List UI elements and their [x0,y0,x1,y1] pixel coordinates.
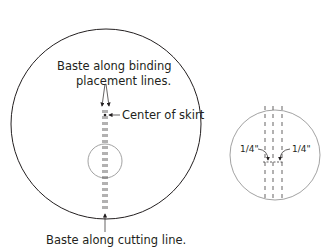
label-binding-line2: placement lines. [76,74,171,88]
detail-outline [230,110,320,200]
basting-lines [103,110,107,210]
label-center-of-skirt: Center of skirt [122,108,205,122]
detail-circle-diagram: 1/4" 1/4" [230,106,320,200]
skirt-basting-diagram: Baste along binding placement lines. Cen… [0,0,333,252]
detail-basting-lines [265,106,282,200]
label-left-quarter-inch: 1/4" [240,144,259,154]
offset-arrows [258,149,290,162]
skirt-outline [11,29,201,219]
label-cutting-line: Baste along cutting line. [46,233,186,247]
label-binding-line1: Baste along binding [57,59,172,73]
label-right-quarter-inch: 1/4" [292,144,311,154]
skirt-circle-diagram: Baste along binding placement lines. Cen… [11,29,205,247]
center-point [104,114,107,117]
